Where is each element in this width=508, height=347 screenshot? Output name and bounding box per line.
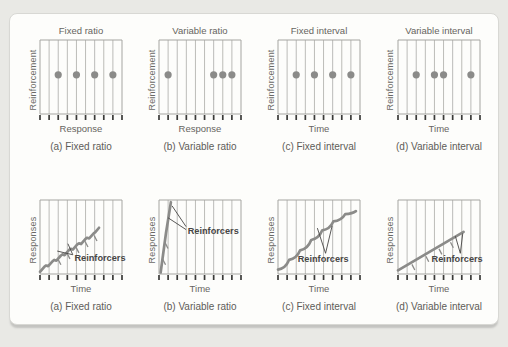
panel-caption: (a) Fixed ratio [37,141,112,152]
x-axis-label: Time [296,283,330,294]
y-axis-label: Reinforcement [26,39,39,121]
panel-bottom-variable-interval: Responses Reinforcers Time (d) Variable … [383,199,482,312]
chart-title: Fixed interval [278,24,348,39]
panel-top-variable-interval: Variable interval Reinforcement Time (d)… [383,24,482,152]
x-axis-label: Time [416,123,450,134]
svg-text:Reinforcers: Reinforcers [188,226,239,236]
panel-caption: (d) Variable interval [383,141,482,152]
panel-bottom-fixed-ratio: Responses Reinforcers Time (a) Fixed rat… [26,199,123,312]
panel-top-fixed-ratio: Fixed ratio Reinforcement Response (a) F… [26,24,123,152]
panel-bottom-variable-ratio: Responses Reinforcers Time (b) Variable … [145,199,242,312]
fixed-ratio-responses-plot: Reinforcers [39,199,123,281]
variable-interval-responses-plot: Reinforcers [397,199,481,281]
y-axis-label: Reinforcement [145,39,158,121]
variable-interval-reinforcement-plot [397,39,481,121]
panel-bottom-fixed-interval: Responses Reinforcers Time (c) Fixed int… [264,199,361,312]
panel-caption: (c) Fixed interval [269,141,356,152]
svg-text:Reinforcers: Reinforcers [74,253,125,263]
x-axis-label: Response [166,123,222,134]
x-axis-label: Time [58,283,92,294]
x-axis-label: Time [296,123,330,134]
y-axis-label: Responses [26,199,39,281]
panel-top-variable-ratio: Variable ratio Reinforcement Response (b… [145,24,242,152]
fixed-ratio-reinforcement-plot [39,39,123,121]
x-axis-label: Time [177,283,211,294]
variable-ratio-reinforcement-plot [158,39,242,121]
chart-title: Variable ratio [159,24,227,39]
fixed-interval-reinforcement-plot [277,39,361,121]
figure-background: Fixed ratio Reinforcement Response (a) F… [0,0,508,347]
y-axis-label: Reinforcement [384,39,397,121]
top-row: Fixed ratio Reinforcement Response (a) F… [26,24,482,152]
figure-card: Fixed ratio Reinforcement Response (a) F… [9,13,499,325]
bottom-row: Responses Reinforcers Time (a) Fixed rat… [26,199,482,312]
panel-top-fixed-interval: Fixed interval Reinforcement Time (c) Fi… [264,24,361,152]
y-axis-label: Reinforcement [264,39,277,121]
y-axis-label: Responses [145,199,158,281]
panel-caption: (d) Variable interval [383,301,482,312]
panel-caption: (a) Fixed ratio [37,301,112,312]
fixed-interval-responses-plot: Reinforcers [277,199,361,281]
panel-caption: (b) Variable ratio [150,141,236,152]
variable-ratio-responses-plot: Reinforcers [158,199,242,281]
svg-text:Reinforcers: Reinforcers [298,254,349,264]
svg-text:Reinforcers: Reinforcers [432,254,483,264]
y-axis-label: Responses [384,199,397,281]
y-axis-label: Responses [264,199,277,281]
x-axis-label: Response [47,123,103,134]
chart-title: Fixed ratio [46,24,103,39]
panel-caption: (b) Variable ratio [150,301,236,312]
x-axis-label: Time [416,283,450,294]
panel-caption: (c) Fixed interval [269,301,356,312]
chart-title: Variable interval [392,24,472,39]
